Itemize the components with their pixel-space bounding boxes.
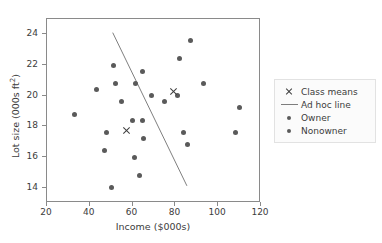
data-point	[72, 112, 77, 117]
data-point	[94, 87, 99, 92]
legend-item[interactable]: Ad hoc line	[279, 98, 371, 111]
x-tick-label: 80	[169, 207, 180, 217]
x-tick	[260, 202, 261, 206]
legend-label: Ad hoc line	[301, 100, 351, 110]
y-axis-label: Lot size (000s ft2)	[9, 61, 21, 171]
data-point	[201, 81, 206, 86]
data-point	[102, 148, 107, 153]
dot-swatch	[287, 116, 291, 120]
data-point	[113, 81, 118, 86]
data-point	[237, 105, 242, 110]
x-tick-label: 100	[209, 207, 226, 217]
data-point	[109, 185, 114, 190]
data-point	[130, 118, 135, 123]
y-tick-label: 20	[27, 90, 38, 100]
legend-label: Owner	[301, 113, 330, 123]
line-swatch-icon	[279, 98, 301, 111]
y-tick-label: 22	[27, 59, 38, 69]
dot-marker-icon	[279, 124, 301, 137]
data-point	[181, 130, 186, 135]
plot-area	[46, 18, 260, 202]
legend-item[interactable]: Owner	[279, 111, 371, 124]
x-tick	[217, 202, 218, 206]
data-point	[140, 69, 145, 74]
x-tick-label: 40	[83, 207, 94, 217]
x-tick-label: 120	[251, 207, 268, 217]
data-point	[233, 130, 238, 135]
x-tick	[174, 202, 175, 206]
data-point	[104, 130, 109, 135]
line-swatch	[281, 104, 298, 105]
class-mean-marker	[122, 126, 131, 135]
y-tick-label: 16	[27, 151, 38, 161]
data-point	[188, 38, 193, 43]
data-point	[162, 99, 167, 104]
legend-item[interactable]: Class means	[279, 85, 371, 98]
x-tick	[89, 202, 90, 206]
data-point	[132, 155, 137, 160]
data-point	[137, 173, 142, 178]
dot-marker-icon	[279, 111, 301, 124]
data-point	[177, 56, 182, 61]
class-mean-marker	[169, 87, 178, 96]
legend: Class meansAd hoc lineOwnerNonowner	[274, 79, 376, 143]
x-tick-label: 20	[40, 207, 51, 217]
y-tick-label: 24	[27, 28, 38, 38]
data-point	[111, 63, 116, 68]
data-point	[133, 81, 138, 86]
data-points-layer	[47, 19, 259, 201]
x-tick-label: 60	[126, 207, 137, 217]
scatter-plot-figure: Lot size (000s ft2) 141618202224 2040608…	[0, 0, 382, 243]
x-tick	[132, 202, 133, 206]
data-point	[119, 99, 124, 104]
data-point	[149, 93, 154, 98]
data-point	[140, 118, 145, 123]
x-tick	[46, 202, 47, 206]
legend-label: Class means	[301, 87, 358, 97]
y-tick-label: 18	[27, 120, 38, 130]
dot-swatch	[287, 129, 291, 133]
legend-label: Nonowner	[301, 126, 347, 136]
data-point	[185, 142, 190, 147]
y-tick-label: 14	[27, 182, 38, 192]
x-axis-label: Income ($000s)	[46, 221, 260, 232]
data-point	[141, 136, 146, 141]
x-marker-icon	[279, 85, 301, 98]
legend-item[interactable]: Nonowner	[279, 124, 371, 137]
